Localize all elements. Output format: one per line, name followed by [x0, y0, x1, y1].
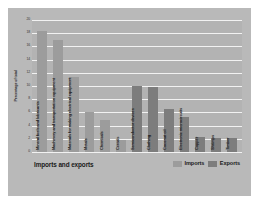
bar-slot: Coconut oil [161, 20, 177, 152]
bar[interactable] [85, 112, 95, 152]
bar-slot: Metals [82, 20, 98, 152]
bar-slot: Shrimps [208, 20, 224, 152]
bar-slot: Copper [192, 20, 208, 152]
bar[interactable] [180, 117, 190, 152]
y-axis-title-text: Percentage of total [15, 70, 19, 101]
y-axis-tick-label: 0 [28, 150, 30, 153]
chart-footer: Imports and exports ImportsExports [32, 158, 242, 176]
bar-slot: Semiconductor devices [129, 20, 145, 152]
bar[interactable] [53, 40, 63, 152]
bar[interactable] [227, 138, 237, 152]
legend-swatch [208, 161, 217, 167]
legend-label: Exports [220, 161, 240, 167]
legend-item[interactable]: Exports [208, 161, 240, 167]
bar-slot: Materials for making electrical equipmen… [66, 20, 82, 152]
bar[interactable] [37, 31, 47, 152]
bar[interactable] [164, 109, 174, 152]
bar[interactable] [69, 77, 79, 152]
y-axis-tick-label: 20 [26, 18, 30, 21]
bar[interactable] [116, 140, 126, 152]
y-axis-tick-label: 12 [26, 71, 30, 74]
bar[interactable] [132, 86, 142, 152]
y-axis-tick-label: 2 [28, 137, 30, 140]
y-axis-tick-label: 14 [26, 58, 30, 61]
bar-slot: Mineral fuels and lubricants [34, 20, 50, 152]
plot-area: 02468101214161820 Mineral fuels and lubr… [32, 20, 242, 152]
y-axis-title: Percentage of total [13, 20, 21, 152]
gridline [32, 152, 242, 153]
y-axis-tick-label: 18 [26, 31, 30, 34]
bar[interactable] [211, 138, 221, 152]
bar-group: Mineral fuels and lubricantsMachinery an… [32, 20, 242, 152]
legend-item[interactable]: Imports [173, 161, 204, 167]
legend-label: Imports [185, 161, 205, 167]
bar-slot: Electronic microcircuits [177, 20, 193, 152]
chart-figure: Percentage of total 02468101214161820 Mi… [8, 8, 251, 196]
bar[interactable] [100, 120, 110, 152]
bar-slot: Chemicals [97, 20, 113, 152]
chart-legend: ImportsExports [173, 161, 240, 167]
bar[interactable] [148, 87, 158, 152]
y-axis-tick-label: 10 [26, 84, 30, 87]
bar-slot: Machinery and transportation equipment [50, 20, 66, 152]
bar-slot: Cereals [113, 20, 129, 152]
legend-swatch [173, 161, 182, 167]
bar-slot: Clothing [145, 20, 161, 152]
y-axis-tick-label: 16 [26, 45, 30, 48]
bar-slot: Timber [224, 20, 240, 152]
y-axis-tick-label: 6 [28, 111, 30, 114]
y-axis-tick-label: 4 [28, 124, 30, 127]
y-axis-tick-label: 8 [28, 97, 30, 100]
bar[interactable] [195, 137, 205, 152]
chart-title: Imports and exports [34, 162, 94, 168]
